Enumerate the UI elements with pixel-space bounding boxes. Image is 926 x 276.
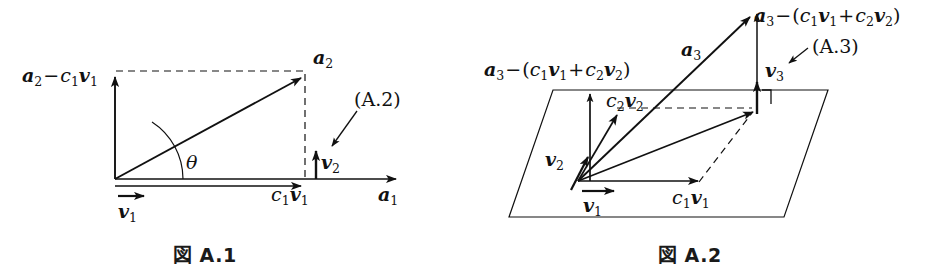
label-a3-minus-sum-top: a3−(c1v1+c2v2) (754, 6, 900, 28)
label-v2: v2 (545, 150, 564, 172)
right-angle-marker (762, 90, 771, 104)
label-c2v2: c2v2 (606, 91, 644, 113)
label-c1v1: c1v1 (271, 185, 309, 207)
label-a3-minus-sum-left: a3−(c1v1+c2v2) (484, 60, 630, 82)
annotation-pointer-a3 (789, 48, 808, 63)
label-c1v1: c1v1 (672, 188, 710, 210)
label-a3: a3 (681, 40, 701, 62)
vector-a3 (578, 17, 750, 181)
label-v1: v1 (118, 202, 137, 224)
equation-ref-a2: (A.2) (354, 88, 401, 110)
label-theta: θ (186, 151, 197, 173)
annotation-pointer-a2 (332, 111, 357, 146)
figure-page: a2−c1v1 a2 v2 c1v1 v1 a1 θ (A.2) 図 A.1 a… (0, 0, 926, 276)
vector-c1v1-plus-c2v2 (578, 112, 753, 181)
fig-a2-group (509, 14, 828, 217)
label-a2: a2 (313, 48, 333, 70)
label-a2-minus-c1v1: a2−c1v1 (22, 66, 98, 88)
label-v2: v2 (321, 153, 340, 175)
vector-c2v2 (578, 115, 617, 181)
figure-caption-a1: 図 A.1 (173, 240, 237, 267)
figures-canvas (0, 0, 926, 276)
vector-a2 (115, 78, 301, 179)
figure-caption-a2: 図 A.2 (658, 240, 722, 267)
label-a1: a1 (378, 185, 398, 207)
label-v3: v3 (765, 61, 784, 83)
equation-ref-a3: (A.3) (812, 35, 859, 57)
label-v1: v1 (583, 196, 602, 218)
